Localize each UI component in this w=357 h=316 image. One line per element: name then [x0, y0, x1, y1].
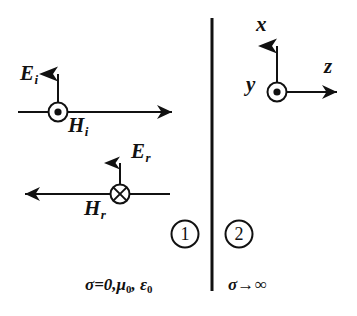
incident-e-field-label: Ei — [20, 63, 38, 86]
incident-h-field-label: Hi — [68, 115, 88, 138]
reflected-e-field-label: Er — [131, 141, 151, 164]
incident-h-field-circle-dot-icon — [49, 103, 68, 122]
incident-e-subscript: i — [35, 72, 39, 87]
region-1-properties-label: σ=0,μ0, ε0 — [85, 276, 152, 295]
region-2-properties-label: σ→∞ — [228, 276, 266, 293]
incident-wave-group — [18, 74, 172, 122]
reflected-e-subscript: r — [146, 150, 151, 165]
region-1-epsilon-subscript: 0 — [147, 283, 152, 295]
incident-e-symbol: E — [20, 61, 34, 85]
reflected-h-symbol: H — [84, 196, 100, 220]
reflected-h-subscript: r — [101, 207, 106, 222]
region-1-badge-number: 1 — [181, 224, 190, 244]
region-2-sigma-infinity: σ→∞ — [228, 275, 266, 294]
y-axis-label: y — [246, 74, 255, 95]
diagram-canvas: 1 2 — [0, 0, 357, 316]
x-axis-label: x — [256, 14, 267, 35]
y-axis-circle-dot-icon — [268, 83, 287, 102]
region-2-badge-number: 2 — [235, 224, 244, 244]
reflected-h-field-label: Hr — [84, 198, 106, 221]
region-1-epsilon: , ε — [132, 275, 147, 294]
region-1-sigma-mu: σ=0,μ — [85, 275, 126, 294]
incident-h-symbol: H — [68, 113, 84, 137]
reflected-e-symbol: E — [131, 139, 145, 163]
physics-diagram: 1 2 Ei Hi Er Hr x y z σ=0,μ0, ε0 σ→∞ — [0, 0, 357, 316]
reflected-h-field-circle-cross-icon — [111, 185, 130, 204]
z-axis-label: z — [324, 56, 332, 77]
incident-h-subscript: i — [85, 124, 89, 139]
